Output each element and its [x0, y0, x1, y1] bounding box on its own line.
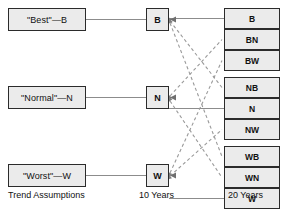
leaf-bw: BW [224, 50, 280, 71]
leaf-b: B [224, 8, 280, 29]
trend-normal-label: "Normal"—N [21, 93, 73, 103]
leaf-wn: WN [224, 167, 280, 188]
column-label-twenty: 20 Years [228, 190, 263, 200]
mid-n-label: N [154, 93, 161, 103]
column-label-trend: Trend Assumptions [8, 190, 85, 200]
trend-worst: "Worst"—W [8, 164, 86, 187]
leaf-nw: NW [224, 119, 280, 140]
edge-mid-n-to-leaf-wn [170, 101, 222, 178]
leaf-wb: WB [224, 146, 280, 167]
leaf-wn-label: WN [245, 173, 259, 183]
leaf-b-label: B [249, 14, 255, 24]
leaf-wb-label: WB [245, 152, 259, 162]
mid-w-label: W [153, 171, 162, 181]
column-label-ten: 10 Years [139, 190, 174, 200]
leaf-nb-label: NB [246, 83, 258, 93]
leaf-n-label: N [249, 104, 255, 114]
mid-n: N [146, 86, 169, 109]
leaf-bn: BN [224, 29, 280, 50]
edge-mid-w-to-leaf-bw [170, 61, 222, 174]
mid-b: B [146, 8, 169, 31]
leaf-bw-label: BW [245, 56, 259, 66]
leaf-nb: NB [224, 77, 280, 98]
trend-worst-label: "Worst"—W [23, 171, 71, 181]
edge-mid-n-to-leaf-bn [170, 40, 222, 97]
trend-normal: "Normal"—N [8, 86, 86, 109]
leaf-nw-label: NW [245, 125, 259, 135]
scenario-tree-diagram: "Best"—B"Normal"—N"Worst"—W BNW BBNBWNBN… [0, 0, 287, 209]
trend-best-label: "Best"—B [27, 15, 67, 25]
arrowhead-group [170, 17, 176, 179]
trend-best: "Best"—B [8, 8, 86, 31]
edge-mid-w-to-leaf-nw [170, 130, 222, 177]
leaf-bn-label: BN [246, 35, 258, 45]
mid-b-label: B [154, 15, 161, 25]
leaf-n: N [224, 98, 280, 119]
arrow-into-mid-w [170, 173, 176, 179]
dashed-edge-group [170, 21, 222, 178]
mid-w: W [146, 164, 169, 187]
